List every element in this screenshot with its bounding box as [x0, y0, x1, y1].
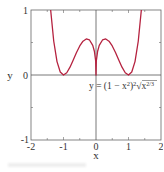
y-tick-label: -1 [21, 134, 29, 145]
y-axis-label: y [7, 69, 13, 81]
x-tick-label: 2 [159, 141, 164, 152]
y-tick-label: 1 [23, 5, 28, 16]
x-tick-label: -1 [59, 141, 67, 152]
function-plot: -2 -1 0 1 2 -1 0 1 x y y = (1 − x2)2√x2/… [0, 0, 163, 172]
svg-text:y = (1 − x2)2√x2/3: y = (1 − x2)2√x2/3 [89, 80, 154, 93]
caption-placeholder-bar [8, 163, 86, 167]
x-tick-label: 1 [126, 141, 131, 152]
formula-annotation: y = (1 − x2)2√x2/3 [89, 80, 157, 93]
y-tick-label: 0 [23, 70, 28, 81]
x-axis-label: x [93, 149, 99, 161]
